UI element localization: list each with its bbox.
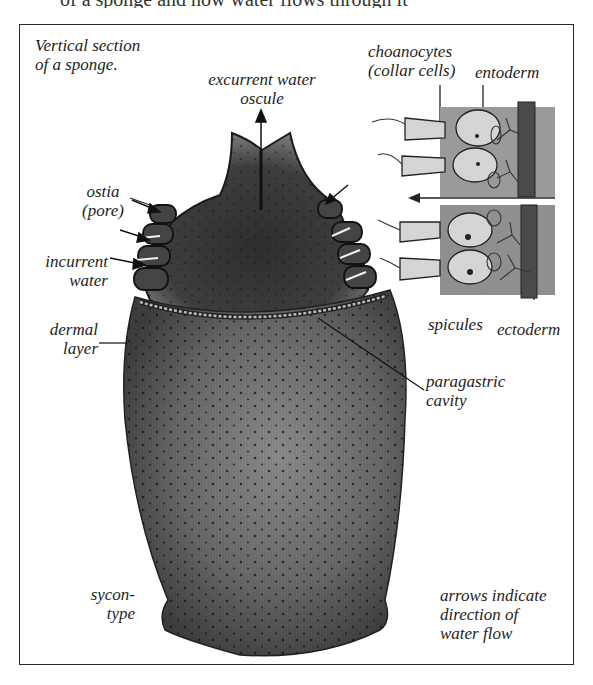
- excurrent-line-2: oscule: [193, 89, 331, 108]
- label-ectoderm: ectoderm: [497, 320, 560, 339]
- inset-flow-arrow-icon: [408, 193, 420, 203]
- choanocyte-inset: [372, 102, 555, 298]
- ostia-line-1: ostia: [78, 182, 128, 201]
- upper-chamber: [134, 133, 376, 322]
- incurrent-line-2: water: [26, 271, 108, 290]
- excurrent-line-1: excurrent water: [193, 70, 331, 89]
- sycon-line-1: sycon-: [80, 585, 135, 604]
- sponge-body: [124, 290, 406, 656]
- label-entoderm: entoderm: [475, 63, 539, 82]
- sycon-line-2: type: [80, 604, 135, 623]
- label-ostia: ostia (pore): [78, 182, 128, 220]
- paragastric-line-1: paragastric: [426, 372, 505, 391]
- title-line-2: of a sponge.: [35, 55, 140, 74]
- label-paragastric-cavity: paragastric cavity: [426, 372, 505, 410]
- label-excurrent-water: excurrent water oscule: [193, 70, 331, 108]
- label-spicules: spicules: [428, 315, 483, 334]
- incurrent-line-1: incurrent: [26, 252, 108, 271]
- note-line-1: arrows indicate: [440, 586, 547, 605]
- label-sycon-type: sycon- type: [80, 585, 135, 623]
- label-dermal-layer: dermal layer: [30, 320, 98, 358]
- diagram-title: Vertical section of a sponge.: [35, 36, 140, 74]
- label-incurrent-water: incurrent water: [26, 252, 108, 290]
- dermal-line-2: layer: [30, 339, 98, 358]
- title-line-1: Vertical section: [35, 36, 140, 55]
- excurrent-arrow-icon: [256, 110, 266, 122]
- paragastric-line-2: cavity: [426, 391, 505, 410]
- choanocytes-line-2: (collar cells): [368, 61, 455, 80]
- note-line-3: water flow: [440, 624, 547, 643]
- flow-legend-note: arrows indicate direction of water flow: [440, 586, 547, 643]
- ostia-line-2: (pore): [78, 201, 128, 220]
- dermal-line-1: dermal: [30, 320, 98, 339]
- label-choanocytes: choanocytes (collar cells): [368, 42, 455, 80]
- choanocytes-line-1: choanocytes: [368, 42, 455, 61]
- note-line-2: direction of: [440, 605, 547, 624]
